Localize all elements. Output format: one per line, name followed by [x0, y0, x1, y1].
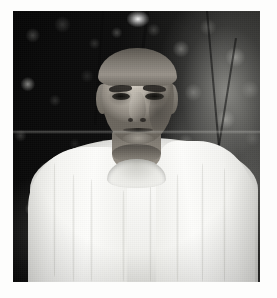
- portrait-photograph: [13, 11, 260, 282]
- shawl-fold: [122, 190, 125, 282]
- subject-figure: [13, 11, 260, 282]
- shawl-fold: [90, 179, 93, 282]
- page-root: [0, 0, 277, 298]
- shawl-fold: [53, 163, 56, 277]
- shawl-fold: [223, 168, 226, 282]
- shawl-fold: [201, 163, 204, 282]
- shawl-right-drape: [156, 141, 255, 282]
- shawl-fold: [149, 184, 152, 282]
- scan-line-artifact: [13, 130, 260, 134]
- shawl-fold: [176, 174, 179, 282]
